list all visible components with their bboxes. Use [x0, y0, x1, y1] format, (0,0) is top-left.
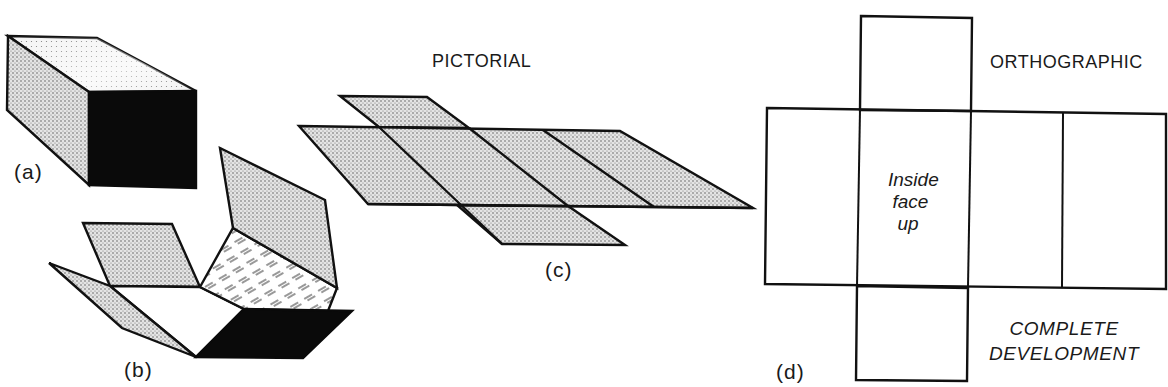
bottom-flap — [856, 286, 968, 381]
inside-face-up-note: Inside face up — [888, 169, 944, 234]
fold-line-d1 — [857, 110, 860, 286]
label-c: (c) — [545, 258, 573, 281]
complete-development-caption: COMPLETE DEVELOPMENT — [989, 318, 1140, 364]
panel-a-closed-box: (a) — [7, 36, 196, 188]
orthographic-title: ORTHOGRAPHIC — [990, 52, 1143, 72]
main-strip — [299, 126, 753, 208]
panel-d-orthographic-development: ORTHOGRAPHIC Inside face up COMPLETE DEV… — [765, 16, 1166, 383]
back-flap — [83, 223, 200, 287]
fold-line-d2 — [968, 111, 971, 287]
label-d: (d) — [776, 360, 805, 383]
pictorial-title: PICTORIAL — [432, 51, 531, 71]
label-b: (b) — [124, 358, 153, 381]
top-tab — [340, 96, 469, 128]
panel-c-pictorial-development: PICTORIAL (c) — [299, 51, 753, 281]
fold-line-d3 — [1062, 113, 1063, 288]
top-flap — [860, 16, 972, 111]
label-a: (a) — [14, 160, 43, 183]
box-front-face-dark — [89, 91, 196, 188]
main-rectangle — [765, 108, 1166, 289]
box-development-diagram: (a) (b) PICTORIAL (c) ORTHOGRAPHIC — [0, 0, 1168, 387]
